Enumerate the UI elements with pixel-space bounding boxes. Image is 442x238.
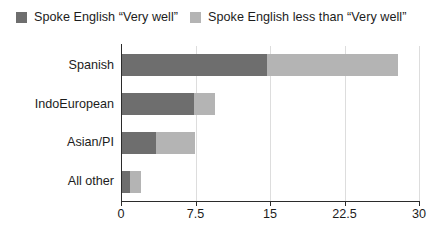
x-axis-tick-label: 22.5: [332, 207, 357, 222]
bar-segment[interactable]: [130, 171, 141, 193]
legend-swatch-icon-less-than-very-well: [190, 12, 201, 23]
bar-segment[interactable]: [194, 93, 216, 115]
legend-item-very-well[interactable]: Spoke English “Very well”: [16, 8, 178, 26]
bar-segment[interactable]: [121, 54, 267, 76]
y-axis-label-asian-pi: Asian/PI: [2, 135, 114, 150]
y-axis-label-spanish: Spanish: [2, 58, 114, 73]
plot-area: [121, 46, 419, 201]
gridline: [419, 46, 420, 201]
x-axis-tick: [345, 201, 346, 206]
x-axis-tick-label: 7.5: [187, 207, 205, 222]
x-axis-tick-label: 30: [412, 207, 426, 222]
y-axis-line: [121, 44, 122, 203]
x-axis-tick-label: 0: [117, 207, 124, 222]
bar-row[interactable]: [121, 132, 195, 154]
legend-label-less-than-very-well: Spoke English less than “Very well”: [208, 10, 406, 25]
x-axis-tick: [419, 201, 420, 206]
bar-row[interactable]: [121, 54, 398, 76]
y-axis-label-indoeuropean: IndoEuropean: [2, 97, 114, 112]
y-axis-label-all-other: All other: [2, 174, 114, 189]
bar-segment[interactable]: [156, 132, 196, 154]
x-axis-tick-label: 15: [263, 207, 277, 222]
stacked-bar-chart: Spoke English “Very well” Spoke English …: [0, 0, 442, 238]
x-axis-tick: [270, 201, 271, 206]
chart-legend: Spoke English “Very well” Spoke English …: [0, 8, 442, 28]
bar-segment[interactable]: [121, 93, 194, 115]
bar-segment[interactable]: [267, 54, 398, 76]
bar-row[interactable]: [121, 171, 141, 193]
x-axis-tick: [196, 201, 197, 206]
bar-row[interactable]: [121, 93, 215, 115]
legend-label-very-well: Spoke English “Very well”: [34, 10, 178, 25]
bar-segment[interactable]: [121, 132, 156, 154]
x-axis-tick: [121, 201, 122, 206]
y-axis-category-labels: Spanish IndoEuropean Asian/PI All other: [0, 46, 114, 201]
legend-swatch-icon-very-well: [16, 12, 27, 23]
legend-item-less-than-very-well[interactable]: Spoke English less than “Very well”: [190, 8, 406, 26]
